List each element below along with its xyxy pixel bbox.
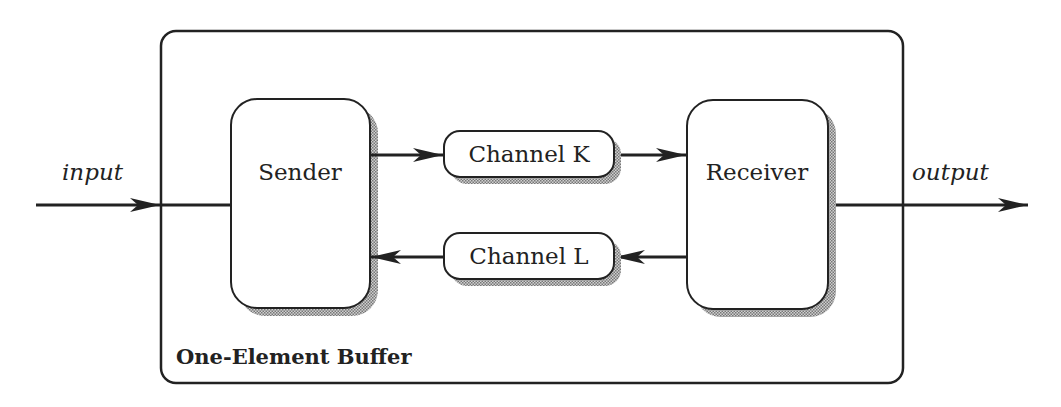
channel-l-node: Channel L — [444, 233, 621, 286]
sender-label: Sender — [258, 159, 342, 185]
buffer-title: One-Element Buffer — [176, 344, 412, 369]
input-arrow: input — [36, 159, 231, 205]
receiver-node: Receiver — [687, 100, 836, 317]
sender-node: Sender — [231, 99, 378, 316]
channel-k-label: Channel K — [468, 141, 590, 167]
output-label: output — [912, 159, 989, 185]
diagram-canvas: One-Element Buffer input output Sender R… — [0, 0, 1061, 407]
channel-l-label: Channel L — [469, 243, 588, 269]
channel-k-node: Channel K — [444, 131, 621, 184]
output-arrow: output — [828, 159, 1028, 205]
input-label: input — [62, 159, 124, 185]
receiver-label: Receiver — [706, 159, 808, 185]
